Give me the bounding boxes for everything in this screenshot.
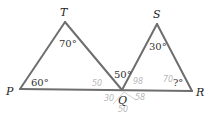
pencil-note: 30 — [104, 94, 114, 103]
vertex-label-S: S — [153, 8, 161, 21]
pencil-note: 98 — [133, 77, 143, 86]
geometry-diagram: T P Q S R 70° 60° 50° 30° ?° 50 98 70 30… — [0, 0, 209, 115]
angle-label-T: 70° — [59, 38, 77, 49]
pencil-note: 50 — [118, 105, 128, 114]
angle-label-Q: 50° — [114, 69, 132, 80]
pencil-note: 58 — [135, 93, 145, 102]
pencil-note: 50 — [92, 79, 102, 88]
edge-PR — [20, 89, 192, 91]
angle-label-R: ?° — [173, 77, 183, 88]
vertex-label-T: T — [60, 6, 69, 19]
angle-label-S: 30° — [149, 41, 167, 52]
vertex-label-P: P — [5, 85, 14, 98]
angle-label-P: 60° — [31, 77, 49, 88]
pencil-note: 70 — [163, 75, 173, 84]
vertex-label-R: R — [195, 86, 204, 99]
